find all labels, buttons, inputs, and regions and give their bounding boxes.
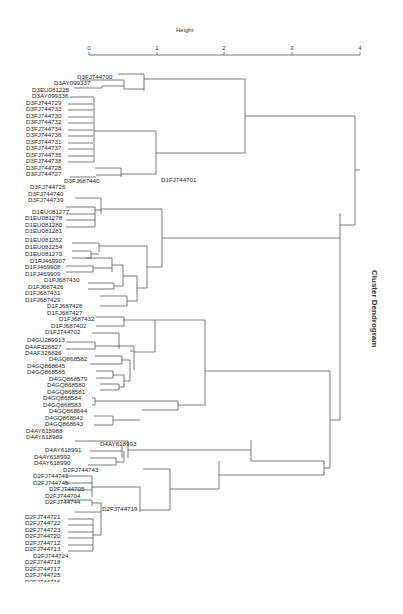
- leaf-label: D4GQ868580: [47, 381, 85, 388]
- leaf-label: D2FJ744722: [25, 519, 60, 526]
- leaf-label: D3FJ744738: [26, 157, 61, 164]
- leaf-label: D4GQ868584: [43, 394, 81, 401]
- leaf-label: D4AY618993: [100, 440, 136, 447]
- leaf-label: D1EU081262: [25, 236, 62, 243]
- leaf-label: D1EU081279: [25, 250, 62, 257]
- leaf-label: D4AY618990: [34, 459, 70, 466]
- leaf-label: D2FJ744741: [33, 472, 68, 479]
- leaf-label: D3FJ744733: [26, 105, 61, 112]
- leaf-label: D2FJ744744: [45, 498, 80, 505]
- leaf-label: D1FJ687432: [59, 315, 94, 322]
- leaf-label: D2FJ744719: [102, 505, 137, 512]
- leaf-label: D1EU081254: [25, 243, 62, 250]
- leaf-label: D1EU081278: [25, 214, 62, 221]
- leaf-label: D3FJ744739: [28, 196, 63, 203]
- leaf-label: D1FJ687428: [47, 302, 82, 309]
- leaf-label: D1EU081281: [25, 227, 62, 234]
- leaf-label: D3FJ687440: [64, 177, 99, 184]
- inner-node-label: D1FJ744701: [161, 176, 196, 183]
- leaf-label: D3AY099336: [32, 92, 68, 99]
- leaf-label: D3FJ744737: [26, 144, 61, 151]
- leaf-label: D1FJ687431: [25, 289, 60, 296]
- leaf-label: D3FJ744736: [26, 131, 61, 138]
- leaf-label: D1FJ469908: [25, 263, 60, 270]
- leaf-label: D2FJ744705: [49, 485, 84, 492]
- leaf-label: D4GQ868643: [45, 420, 83, 427]
- leaf-label: D4GQ868585: [27, 368, 65, 375]
- leaf-label: D2FJ744720: [25, 532, 60, 539]
- leaf-label: D1FJ744702: [45, 328, 80, 335]
- leaf-label: D1FJ687430: [44, 276, 79, 283]
- leaf-label: D4AY618991: [45, 446, 81, 453]
- leaf-label: D4AY618989: [26, 433, 62, 440]
- leaf-label: D2FJ744716: [25, 578, 60, 582]
- leaf-label: D3FJ744727: [26, 170, 61, 177]
- leaf-label: D3FJ744732: [26, 118, 61, 125]
- leaf-label: D4GQ868644: [49, 407, 87, 414]
- leaf-label: D3FJ744726: [30, 183, 65, 190]
- leaf-label: D2FJ744725: [25, 571, 60, 578]
- leaf-label: D2FJ744718: [25, 558, 60, 565]
- leaf-label: D4GU289913: [27, 336, 65, 343]
- leaf-label: D4GQ868582: [49, 355, 87, 362]
- leaf-label: D3AY099337: [54, 79, 90, 86]
- leaf-label: D2FJ744713: [25, 545, 60, 552]
